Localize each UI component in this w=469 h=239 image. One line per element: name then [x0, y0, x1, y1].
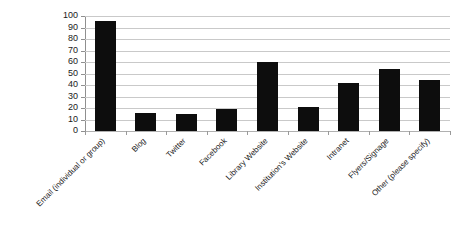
x-tick-mark — [288, 131, 289, 135]
bar-chart: 0102030405060708090100 Email (individual… — [0, 0, 469, 239]
y-tick-label: 0 — [52, 126, 78, 135]
x-tick-mark — [409, 131, 410, 135]
bar — [338, 83, 359, 131]
plot-area — [85, 16, 450, 131]
y-tick-label: 40 — [52, 80, 78, 89]
bar — [216, 109, 237, 131]
bar — [257, 62, 278, 131]
bar — [379, 69, 400, 131]
x-tick-mark — [247, 131, 248, 135]
x-tick-label: Email (individual or group) — [36, 137, 107, 208]
y-tick-label: 70 — [52, 46, 78, 55]
x-tick-label: Facebook — [198, 137, 229, 168]
y-tick-label: 80 — [52, 34, 78, 43]
x-tick-mark — [85, 131, 86, 135]
x-tick-mark — [207, 131, 208, 135]
bar — [419, 80, 440, 131]
y-tick-label: 30 — [52, 92, 78, 101]
y-tick-label: 100 — [52, 11, 78, 20]
x-tick-label: Flyers/Signage — [347, 137, 390, 180]
x-tick-label: Blog — [131, 137, 148, 154]
y-tick-label: 20 — [52, 103, 78, 112]
x-tick-label: Intranet — [325, 137, 350, 162]
x-tick-mark — [450, 131, 451, 135]
y-tick-label: 10 — [52, 115, 78, 124]
bar — [298, 107, 319, 131]
x-tick-label: Library Website — [224, 137, 269, 182]
x-tick-mark — [328, 131, 329, 135]
x-tick-mark — [126, 131, 127, 135]
y-tick-label: 50 — [52, 69, 78, 78]
x-tick-label: Twitter — [166, 137, 188, 159]
y-tick-label: 60 — [52, 57, 78, 66]
bar — [95, 21, 116, 131]
x-tick-mark — [166, 131, 167, 135]
bar — [135, 113, 156, 131]
bar — [176, 114, 197, 131]
y-tick-label: 90 — [52, 23, 78, 32]
x-tick-mark — [369, 131, 370, 135]
gridline — [85, 131, 450, 132]
